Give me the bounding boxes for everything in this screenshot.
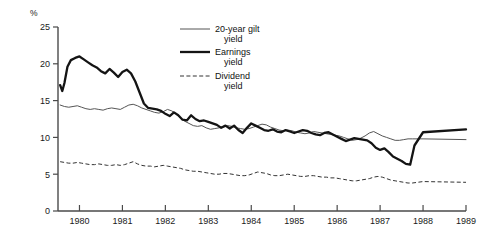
x-tick-label: 1982 <box>155 216 175 226</box>
x-tick-label: 1980 <box>69 216 89 226</box>
y-axis-unit-label: % <box>30 8 38 18</box>
y-tick-label: 10 <box>40 133 50 143</box>
y-tick-label: 25 <box>40 22 50 32</box>
series-line-gilt-yield <box>60 104 466 140</box>
y-tick-label: 20 <box>40 59 50 69</box>
series-line-dividend-yield <box>60 162 466 183</box>
legend-label-dividend-line2: yield <box>224 81 243 91</box>
x-tick-label: 1987 <box>370 216 390 226</box>
x-tick-label: 1984 <box>241 216 261 226</box>
y-tick-group: 0510152025 <box>40 22 58 216</box>
y-tick-label: 15 <box>40 96 50 106</box>
chart-page: 0510152025 % 198019811982198319841985198… <box>0 0 488 248</box>
x-tick-label: 1986 <box>327 216 347 226</box>
y-tick-label: 5 <box>45 170 50 180</box>
x-tick-label: 1981 <box>112 216 132 226</box>
x-tick-label: 1983 <box>198 216 218 226</box>
legend-label-earnings-line2: yield <box>224 57 243 67</box>
legend-label-dividend-line1: Dividend <box>215 71 250 81</box>
yield-comparison-chart: 0510152025 % 198019811982198319841985198… <box>0 0 488 248</box>
y-axis-group: 0510152025 % <box>30 8 58 216</box>
x-tick-group: 1980198119821983198419851986198719881989 <box>69 205 476 226</box>
legend-label-gilt-line1: 20-year gilt <box>215 24 260 34</box>
x-tick-label: 1989 <box>456 216 476 226</box>
legend-label-earnings-line1: Earnings <box>215 47 251 57</box>
x-tick-label: 1985 <box>284 216 304 226</box>
series-group <box>60 56 466 183</box>
y-tick-label: 0 <box>45 206 50 216</box>
series-line-earnings-yield <box>60 56 466 164</box>
x-axis-group: 1980198119821983198419851986198719881989 <box>58 205 476 226</box>
x-tick-label: 1988 <box>413 216 433 226</box>
legend-label-gilt-line2: yield <box>224 34 243 44</box>
chart-legend: 20-year gilt yield Earnings yield Divide… <box>180 24 260 91</box>
